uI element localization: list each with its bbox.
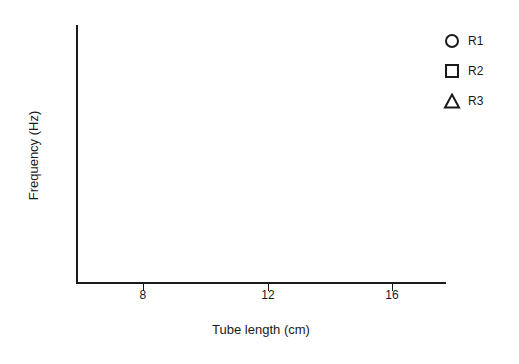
y-axis-line <box>76 25 78 284</box>
legend-label-r1: R1 <box>468 34 484 48</box>
circle-marker-icon <box>443 32 461 50</box>
legend-item-r1[interactable]: R1 <box>443 26 515 56</box>
x-axis-line <box>76 282 446 284</box>
triangle-marker-icon <box>443 92 461 110</box>
plot-area <box>78 25 446 282</box>
legend-item-r3[interactable]: R3 <box>443 86 515 116</box>
chart-legend: R1 R2 R3 <box>443 26 515 116</box>
square-marker-icon <box>443 62 461 80</box>
legend-label-r3: R3 <box>468 94 484 108</box>
legend-item-r2[interactable]: R2 <box>443 56 515 86</box>
legend-label-r2: R2 <box>468 64 484 78</box>
x-tick-label-8: 8 <box>123 288 163 302</box>
x-tick-label-16: 16 <box>372 288 412 302</box>
y-axis-title: Frequency (Hz) <box>26 76 41 236</box>
x-axis-title: Tube length (cm) <box>76 322 446 337</box>
x-tick-label-12: 12 <box>248 288 288 302</box>
chart-figure: 8 12 16 Frequency (Hz) Tube length (cm) … <box>0 0 519 364</box>
